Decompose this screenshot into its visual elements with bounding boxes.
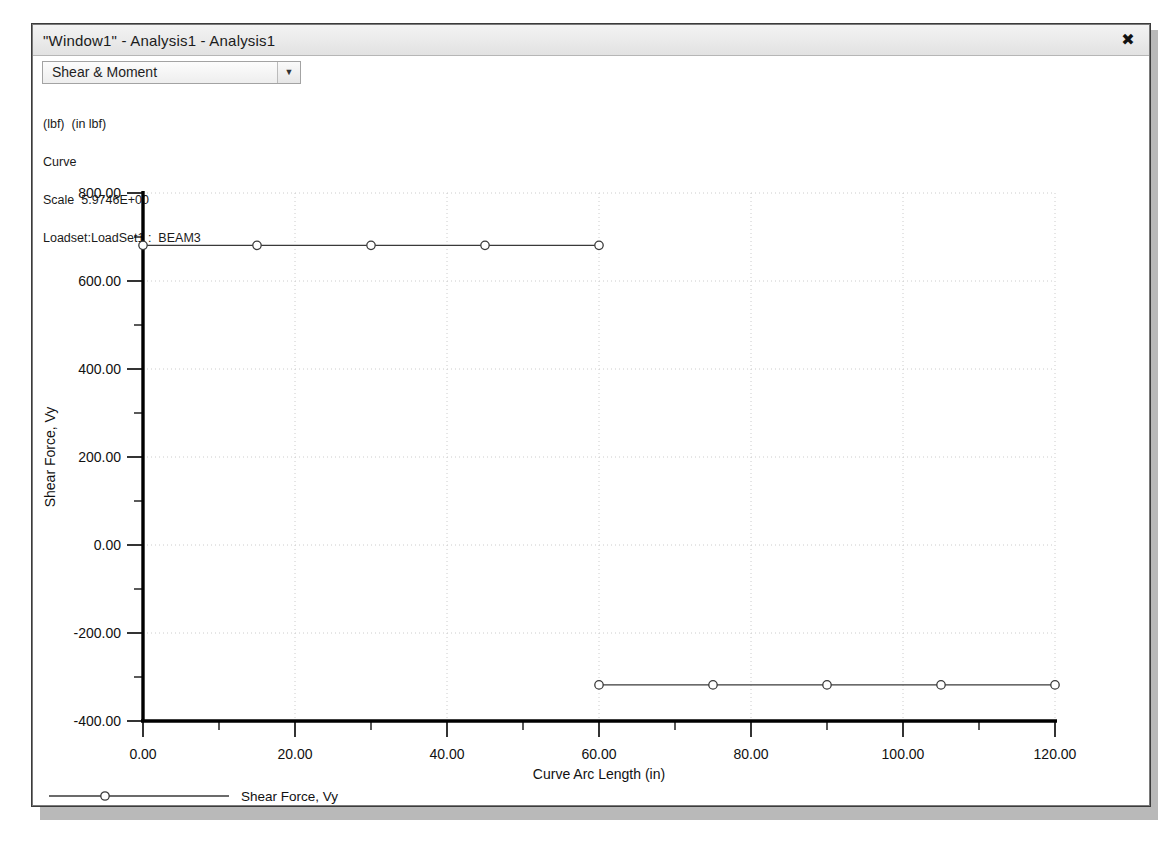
y-axis-tick-label: 200.00 [78, 449, 121, 465]
y-axis-tick-label: 600.00 [78, 273, 121, 289]
x-axis-tick-label: 40.00 [429, 746, 464, 762]
y-axis-tick-label: 800.00 [78, 185, 121, 201]
data-point-marker[interactable] [481, 241, 489, 249]
data-point-marker[interactable] [1051, 681, 1059, 689]
y-axis-tick-label: -200.00 [74, 625, 122, 641]
chart-area: -400.00-200.000.00200.00400.00600.00800.… [33, 25, 1151, 807]
x-axis-tick-label: 80.00 [733, 746, 768, 762]
x-axis-tick-label: 20.00 [277, 746, 312, 762]
data-point-marker[interactable] [367, 241, 375, 249]
analysis-window: "Window1" - Analysis1 - Analysis1 ✖ Shea… [32, 24, 1150, 806]
y-axis-tick-label: 400.00 [78, 361, 121, 377]
x-axis-title: Curve Arc Length (in) [533, 766, 665, 782]
data-point-marker[interactable] [595, 681, 603, 689]
y-axis-tick-label: 0.00 [94, 537, 121, 553]
data-point-marker[interactable] [253, 241, 261, 249]
y-axis-title: Shear Force, Vy [42, 407, 58, 508]
data-point-marker[interactable] [823, 681, 831, 689]
x-axis-tick-label: 0.00 [129, 746, 156, 762]
data-point-marker[interactable] [139, 241, 147, 249]
data-point-marker[interactable] [595, 241, 603, 249]
x-axis-tick-label: 100.00 [882, 746, 925, 762]
x-axis-tick-label: 60.00 [581, 746, 616, 762]
data-point-marker[interactable] [937, 681, 945, 689]
shear-force-plot: -400.00-200.000.00200.00400.00600.00800.… [33, 25, 1151, 807]
data-point-marker[interactable] [709, 681, 717, 689]
legend-label: Shear Force, Vy [241, 789, 338, 804]
y-axis-tick-label: -400.00 [74, 713, 122, 729]
legend-marker-icon [101, 792, 109, 800]
x-axis-tick-label: 120.00 [1034, 746, 1077, 762]
